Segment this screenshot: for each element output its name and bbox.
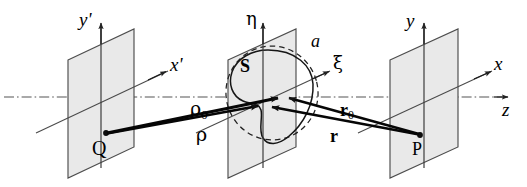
r-zero-glyph: r [340,100,348,120]
vector-rho-label: ρ [196,125,207,144]
figure-root: y' x' Q η ξ a S y x z P ρ0 ρ r0 r [0,0,527,187]
r-zero-subscript: 0 [348,108,354,122]
rho-zero-glyph: ρ [190,97,201,119]
point-P-label: P [412,140,422,158]
xi-axis-arrow [312,72,329,80]
vector-r-label: r [330,127,338,145]
xprime-axis-label: x' [170,55,183,74]
vector-r-zero-label: r0 [340,101,354,122]
point-Q-label: Q [92,138,106,158]
aperture-plane-face [228,29,296,178]
observation-plane [358,23,492,178]
xi-axis-label: ξ [333,54,343,72]
rho-zero-subscript: 0 [201,108,207,122]
eta-axis-label: η [246,10,257,28]
xprime-axis-arrow [148,72,166,81]
yprime-axis-label: y' [79,10,92,29]
z-axis-label: z [502,100,509,119]
aperture-surface-label: S [240,57,250,75]
y-axis-label: y [406,11,414,30]
vector-rho-zero-label: ρ0 [190,99,207,121]
x-axis-label: x [494,54,502,73]
aperture-radius-label: a [311,32,320,50]
x-axis-arrow [474,72,491,80]
